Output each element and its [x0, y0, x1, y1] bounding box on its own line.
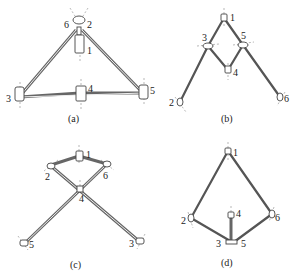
- panel-c: 1 2 6 4 5 3 (c): [18, 145, 145, 271]
- joint-label-4: 4: [88, 83, 93, 94]
- joint-label-5: 5: [241, 238, 246, 249]
- joint-label-6: 6: [64, 19, 69, 30]
- joint-label-6: 6: [284, 93, 289, 104]
- joint-label-1: 1: [87, 45, 92, 56]
- mechanism-figure: 6 2 1 3 4 5 (a) 1 3 5 4 2 6 (b): [0, 0, 295, 273]
- joint-label-5: 5: [150, 85, 155, 96]
- joint-label-4: 4: [233, 67, 238, 78]
- joint-label-5: 5: [241, 30, 246, 41]
- joint-label-3: 3: [129, 238, 134, 249]
- joint-label-2: 2: [181, 215, 186, 226]
- joint-label-1: 1: [86, 149, 91, 160]
- joint-label-5: 5: [29, 239, 34, 250]
- joint-label-3: 3: [6, 93, 11, 104]
- joint-label-4: 4: [79, 193, 84, 204]
- joint-label-6: 6: [275, 212, 280, 223]
- joint-label-3: 3: [202, 32, 207, 43]
- panel-b: 1 3 5 4 2 6 (b): [169, 8, 289, 125]
- joint-label-3: 3: [216, 238, 221, 249]
- joint-label-1: 1: [233, 147, 238, 158]
- joint-label-2: 2: [169, 97, 174, 108]
- caption-a: (a): [68, 113, 79, 125]
- joint-label-2: 2: [45, 171, 50, 182]
- joint-label-1: 1: [230, 12, 235, 23]
- panel-d: 1 2 4 6 3 5 (d): [181, 142, 280, 269]
- joint-label-4: 4: [236, 208, 241, 219]
- caption-c: (c): [70, 259, 81, 271]
- panel-a: 6 2 1 3 4 5 (a): [6, 8, 155, 125]
- caption-b: (b): [221, 113, 233, 125]
- joint-label-2: 2: [87, 19, 92, 30]
- joint-label-6: 6: [103, 170, 108, 181]
- caption-d: (d): [221, 257, 233, 269]
